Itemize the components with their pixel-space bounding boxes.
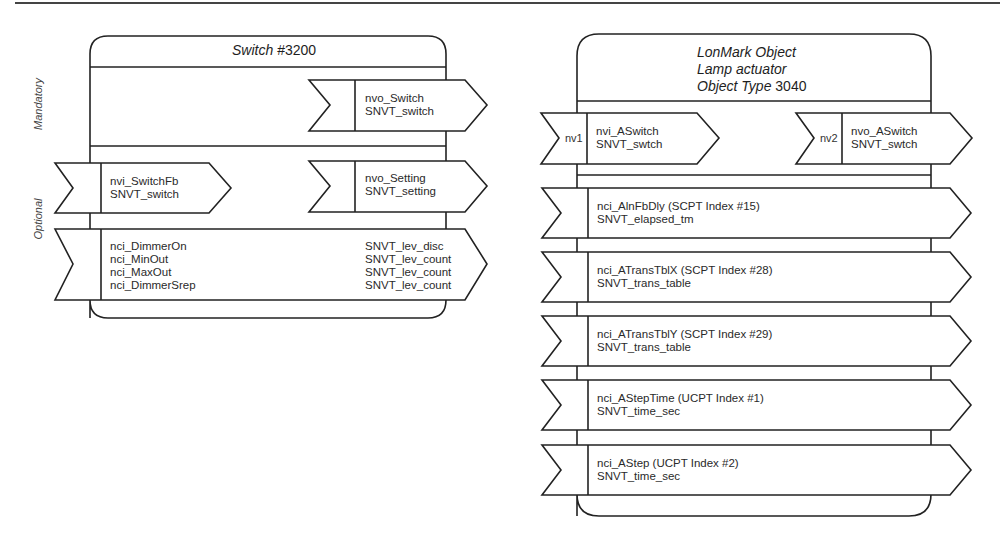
lamp-config-label-2: nci_ATransTblX (SCPT Index #28) SNVT_tra… [597, 264, 773, 290]
lamp-config-label-4: nci_AStepTime (UCPT Index #1) SNVT_time_… [597, 392, 764, 418]
nv-type: SNVT_swtch [851, 138, 917, 151]
lamp-object-title: LonMark Object Lamp actuator Object Type… [697, 44, 806, 95]
lamp-config-label-3: nci_ATransTblY (SCPT Index #29) SNVT_tra… [597, 328, 772, 354]
nv-name: nvo_Setting [365, 172, 436, 185]
config-name: nci_ATransTblX (SCPT Index #28) [597, 264, 773, 277]
config-name: nci_DimmerSrep [110, 279, 196, 292]
nvo-setting-label: nvo_Setting SNVT_setting [365, 172, 436, 198]
section-label-optional: Optional [32, 189, 44, 249]
switch-title-name: Switch [232, 42, 273, 58]
nv-name: nvo_Switch [365, 92, 434, 105]
lamp-object-type-number: 3040 [775, 78, 806, 94]
config-type: SNVT_lev_count [365, 266, 451, 279]
config-type: SNVT_time_sec [597, 470, 739, 483]
nvi-aswitch-label: nvi_ASwitch SNVT_swtch [596, 125, 662, 151]
config-name: nci_ATransTblY (SCPT Index #29) [597, 328, 772, 341]
lamp-title-line3: Object Type [697, 78, 771, 94]
switch-config-types: SNVT_lev_disc SNVT_lev_count SNVT_lev_co… [365, 240, 451, 292]
nv-name: nvo_ASwitch [851, 125, 917, 138]
nv-type: SNVT_switch [365, 105, 434, 118]
nv-type: SNVT_swtch [596, 138, 662, 151]
switch-title-number: #3200 [277, 42, 316, 58]
nv-type: SNVT_setting [365, 185, 436, 198]
nv-name: nvi_SwitchFb [110, 175, 179, 188]
section-label-mandatory: Mandatory [32, 74, 44, 134]
config-type: SNVT_time_sec [597, 405, 764, 418]
lamp-title-line2: Lamp actuator [697, 61, 787, 77]
nv-name: nvi_ASwitch [596, 125, 662, 138]
config-name: nci_AStepTime (UCPT Index #1) [597, 392, 764, 405]
config-name: nci_AlnFbDly (SCPT Index #15) [597, 200, 760, 213]
config-type: SNVT_trans_table [597, 341, 772, 354]
lamp-config-label-5: nci_AStep (UCPT Index #2) SNVT_time_sec [597, 457, 739, 483]
nv-type: SNVT_switch [110, 188, 179, 201]
nv2-tag: nv2 [820, 132, 838, 144]
config-type: SNVT_elapsed_tm [597, 213, 760, 226]
switch-object-title: Switch #3200 [232, 42, 316, 59]
config-name: nci_DimmerOn [110, 240, 196, 253]
switch-config-names: nci_DimmerOn nci_MinOut nci_MaxOut nci_D… [110, 240, 196, 292]
nvo-aswitch-label: nvo_ASwitch SNVT_swtch [851, 125, 917, 151]
config-name: nci_MinOut [110, 253, 196, 266]
nvo-switch-label: nvo_Switch SNVT_switch [365, 92, 434, 118]
config-name: nci_AStep (UCPT Index #2) [597, 457, 739, 470]
config-type: SNVT_lev_count [365, 253, 451, 266]
config-type: SNVT_lev_count [365, 279, 451, 292]
lamp-title-line1: LonMark Object [697, 44, 796, 60]
nvi-switchfb-label: nvi_SwitchFb SNVT_switch [110, 175, 179, 201]
lamp-config-label-1: nci_AlnFbDly (SCPT Index #15) SNVT_elaps… [597, 200, 760, 226]
config-name: nci_MaxOut [110, 266, 196, 279]
config-type: SNVT_lev_disc [365, 240, 451, 253]
nv1-tag: nv1 [565, 132, 583, 144]
config-type: SNVT_trans_table [597, 277, 773, 290]
